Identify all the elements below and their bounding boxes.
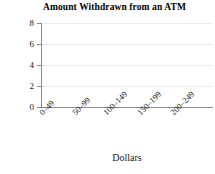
y-tick-label-4: 4 bbox=[4, 61, 34, 70]
y-tick-label-6: 6 bbox=[4, 40, 34, 49]
y-tick-mark-8 bbox=[37, 23, 42, 24]
y-tick-label-2: 2 bbox=[4, 82, 34, 91]
gridline-4 bbox=[41, 65, 213, 66]
gridline-6 bbox=[41, 44, 213, 45]
chart-title: Amount Withdrawn from an ATM bbox=[0, 2, 215, 12]
y-tick-mark-4 bbox=[37, 65, 42, 66]
x-axis-spine bbox=[41, 107, 213, 108]
y-tick-mark-2 bbox=[37, 86, 42, 87]
y-tick-label-8: 8 bbox=[4, 19, 34, 28]
gridline-8 bbox=[41, 23, 213, 24]
x-axis-title: Dollars bbox=[41, 152, 213, 163]
chart-figure: Amount Withdrawn from an ATM Frequency 8… bbox=[0, 0, 215, 174]
y-tick-mark-6 bbox=[37, 44, 42, 45]
gridline-2 bbox=[41, 86, 213, 87]
y-tick-label-0: 0 bbox=[4, 103, 34, 112]
